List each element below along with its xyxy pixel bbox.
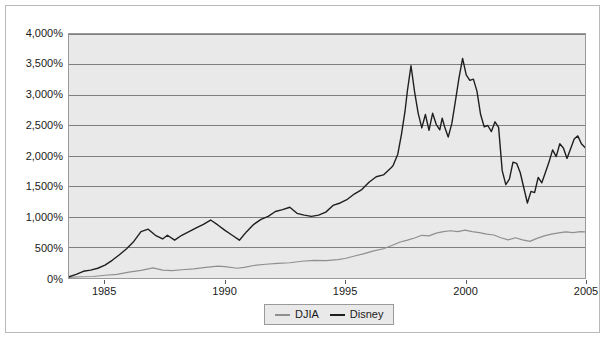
x-axis-tick-mark <box>345 280 346 284</box>
x-axis-tick-label: 1995 <box>333 286 357 297</box>
x-axis-tick-mark <box>104 280 105 284</box>
x-axis-tick-label: 2005 <box>574 286 598 297</box>
legend-entry-djia[interactable]: DJIA <box>275 309 319 320</box>
legend-label-djia: DJIA <box>295 309 319 320</box>
x-axis-tick-label: 1985 <box>92 286 116 297</box>
x-axis-tick-label: 2000 <box>453 286 477 297</box>
chart-frame: 4,000%3,500%3,000%2,500%2,000%1,500%1,00… <box>5 5 600 333</box>
legend-entry-disney[interactable]: Disney <box>330 309 384 320</box>
legend-label-disney: Disney <box>350 309 384 320</box>
x-axis-tick-mark <box>466 280 467 284</box>
chart-legend: DJIA Disney <box>264 304 394 325</box>
x-axis-tick-label: 1990 <box>212 286 236 297</box>
x-axis-tick-mark <box>225 280 226 284</box>
legend-swatch-disney <box>330 314 345 316</box>
x-axis-labels: 19851990199520002005 <box>6 6 607 340</box>
x-axis-tick-mark <box>586 280 587 284</box>
legend-swatch-djia <box>275 314 290 316</box>
